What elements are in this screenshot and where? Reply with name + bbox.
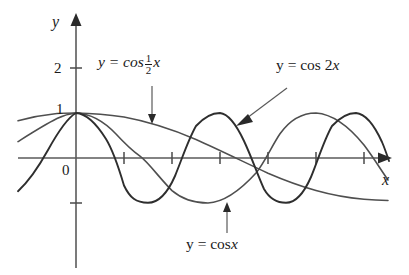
cosine-curves-figure bbox=[0, 0, 409, 275]
pointer-arrows bbox=[148, 86, 287, 233]
annotation-cos-2x-lhs: y = cos 2 bbox=[276, 56, 333, 73]
y-axis-arrowhead bbox=[71, 13, 82, 26]
fraction-numerator: 1 bbox=[145, 53, 153, 64]
annotation-cos-half-x-var: x bbox=[153, 53, 160, 70]
annotation-cos-2x: y = cos 2x bbox=[276, 57, 339, 73]
x-axis-arrowhead bbox=[378, 153, 392, 164]
annotation-cos-half-x: y = cos12x bbox=[98, 53, 160, 76]
y-tick-label-2: 2 bbox=[54, 61, 62, 76]
annotation-cos-x: y = cosx bbox=[186, 236, 238, 252]
arrow-head-cos-x bbox=[223, 202, 231, 212]
annotation-cos-x-lhs: y = cos bbox=[186, 235, 231, 252]
annotation-cos-2x-var: x bbox=[333, 56, 340, 73]
y-tick-label-0: 0 bbox=[62, 163, 70, 178]
annotation-cos-x-var: x bbox=[231, 235, 238, 252]
axes bbox=[18, 13, 392, 268]
arrow-line-cos-2x bbox=[243, 88, 287, 121]
y-tick-label-1: 1 bbox=[56, 102, 64, 117]
fraction-denominator: 2 bbox=[145, 64, 153, 76]
fraction-one-half: 12 bbox=[145, 53, 153, 76]
x-axis-label: x bbox=[382, 172, 389, 188]
annotation-cos-half-x-lhs: y = cos bbox=[98, 53, 144, 70]
y-axis-label: y bbox=[52, 14, 59, 30]
